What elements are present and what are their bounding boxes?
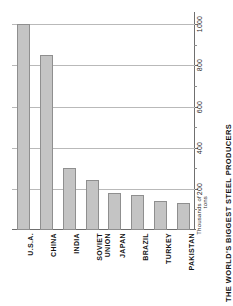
bar xyxy=(40,55,53,230)
bar xyxy=(154,201,167,230)
bar xyxy=(177,203,190,230)
value-axis-tick-label: 1000 xyxy=(196,11,203,37)
category-label: JAPAN xyxy=(119,233,127,303)
bar xyxy=(108,193,121,230)
category-label: BRAZIL xyxy=(142,233,150,303)
bar xyxy=(86,180,99,230)
value-axis-tick-label: 400 xyxy=(196,135,203,161)
chart-canvas: U.S.A.CHINAINDIASOVIET UNIONJAPANBRAZILT… xyxy=(0,0,233,306)
chart-title: THE WORLD'S BIGGEST STEEL PRODUCERS xyxy=(224,124,233,302)
value-axis-tick-label: 800 xyxy=(196,52,203,78)
value-axis-tick-label: 600 xyxy=(196,94,203,120)
bar xyxy=(131,195,144,230)
category-label: TURKEY xyxy=(165,233,173,303)
bar xyxy=(17,24,30,230)
category-label: INDIA xyxy=(73,233,81,303)
category-label: PAKISTAN xyxy=(188,233,196,303)
category-label: SOVIET UNION xyxy=(96,233,112,303)
value-axis-title: Thousands of tons xyxy=(196,196,208,242)
bar xyxy=(63,168,76,230)
bar-series xyxy=(12,12,195,230)
category-labels: U.S.A.CHINAINDIASOVIET UNIONJAPANBRAZILT… xyxy=(12,233,195,306)
category-label: CHINA xyxy=(50,233,58,303)
category-label: U.S.A. xyxy=(27,233,35,303)
